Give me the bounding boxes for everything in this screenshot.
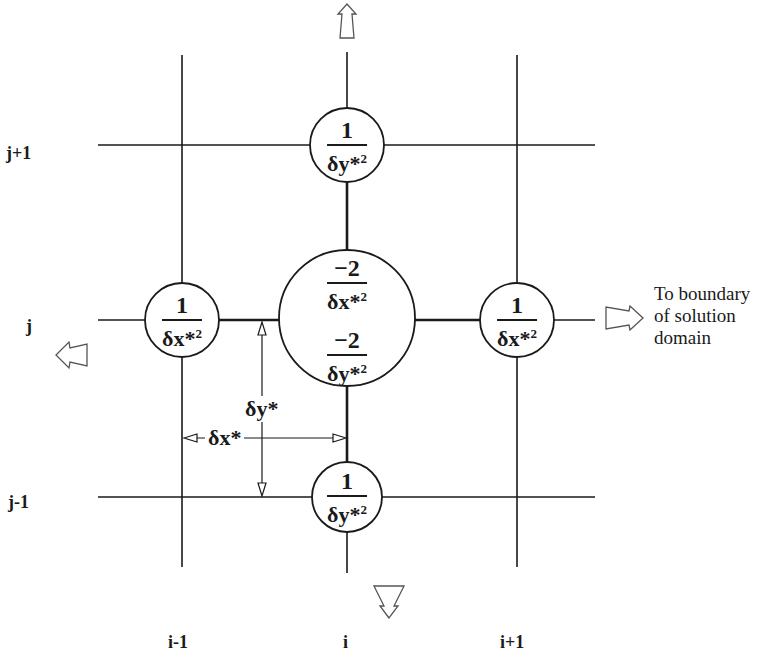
boundary-note: To boundary of solution domain [654,283,750,349]
dx-arrowhead-left-icon [184,434,197,442]
node-center-x-coefficient: −2 δx*2 [327,256,367,314]
arrow-down-icon [374,586,404,618]
fraction-bar [327,495,367,497]
row-label-j: j [26,316,32,337]
arrow-left-icon [56,342,87,368]
node-left-coefficient: 1 δx*2 [162,293,202,351]
column-label-i-minus-1: i-1 [168,632,188,653]
row-label-j-minus-1: j-1 [8,492,29,513]
node-bottom-coefficient: 1 δy*2 [327,469,367,527]
arrow-right-icon [606,306,643,330]
node-right-coefficient: 1 δx*2 [497,293,537,351]
fraction-bar [327,144,367,146]
fraction-bar [327,282,367,284]
dx-dimension-label: δx* [205,425,244,451]
column-label-i: i [343,632,348,653]
row-label-j-plus-1: j+1 [6,143,31,164]
node-top-coefficient: 1 δy*2 [327,118,367,176]
fraction-bar [162,319,202,321]
column-label-i-plus-1: i+1 [500,632,524,653]
dx-arrowhead-right-icon [333,434,346,442]
arrow-up-icon [338,4,356,38]
dy-arrowhead-down-icon [258,483,266,496]
fraction-bar [327,354,367,356]
dy-dimension-label: δy* [242,396,281,422]
node-center-y-coefficient: −2 δy*2 [327,328,367,386]
dy-arrowhead-up-icon [258,322,266,335]
fraction-bar [497,319,537,321]
